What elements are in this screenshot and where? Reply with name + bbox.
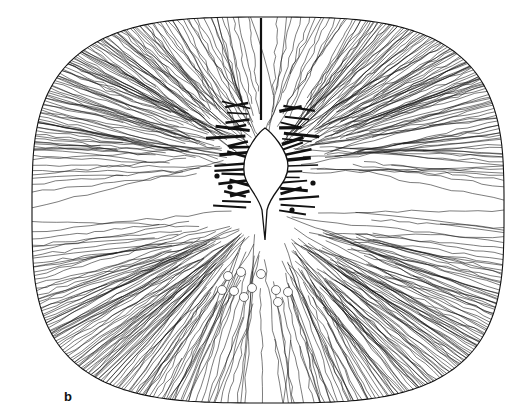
panel-label: b [64,389,72,404]
central-canal [244,128,288,240]
histology-drawing [0,0,524,420]
radial-fibers [32,17,504,403]
